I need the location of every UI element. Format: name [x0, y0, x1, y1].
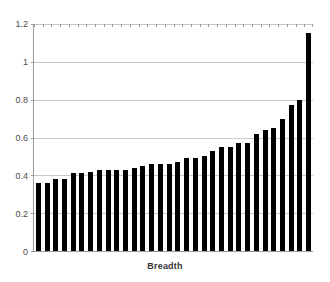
bar — [289, 105, 294, 251]
bar — [210, 151, 215, 251]
plot-area — [33, 24, 313, 252]
bar — [228, 147, 233, 251]
x-tick-mark — [104, 24, 105, 27]
x-tick-mark — [147, 24, 148, 27]
x-tick-mark — [226, 24, 227, 27]
y-tick-label-0.6: 0.6 — [0, 134, 28, 143]
x-tick-mark — [296, 24, 297, 27]
bar — [132, 168, 137, 251]
bar — [254, 134, 259, 251]
x-tick-mark — [86, 24, 87, 27]
bar — [97, 170, 102, 251]
x-tick-mark — [252, 24, 253, 27]
x-tick-mark — [130, 24, 131, 27]
x-axis-title: Breadth — [0, 261, 330, 271]
bar — [149, 164, 154, 251]
bar — [202, 156, 207, 251]
x-tick-mark — [34, 24, 35, 27]
bar — [175, 162, 180, 251]
bar — [158, 164, 163, 251]
y-tick-label-1.2: 1.2 — [0, 20, 28, 29]
bar — [36, 183, 41, 251]
bar — [245, 143, 250, 251]
y-tick-label-0.4: 0.4 — [0, 172, 28, 181]
bar — [71, 173, 76, 251]
x-tick-mark — [243, 24, 244, 27]
bar — [219, 147, 224, 251]
bar — [271, 128, 276, 251]
bar — [140, 166, 145, 251]
x-tick-mark — [121, 24, 122, 27]
x-tick-mark — [278, 24, 279, 27]
bar — [106, 170, 111, 251]
x-tick-mark — [208, 24, 209, 27]
x-tick-mark — [174, 24, 175, 27]
y-tick-label-0.2: 0.2 — [0, 210, 28, 219]
bar — [53, 179, 58, 251]
x-tick-mark — [112, 24, 113, 27]
bar — [123, 170, 128, 251]
bar-chart: 1.2 1 0.8 0.6 0.4 0.2 0 Breadth — [0, 0, 330, 282]
x-tick-mark — [217, 24, 218, 27]
x-tick-mark — [43, 24, 44, 27]
x-tick-mark — [269, 24, 270, 27]
x-tick-mark — [287, 24, 288, 27]
bar — [114, 170, 119, 251]
bar — [280, 119, 285, 251]
bar-series — [34, 24, 313, 251]
x-tick-mark — [78, 24, 79, 27]
y-tick-label-1: 1 — [0, 58, 28, 67]
y-tick-label-0.8: 0.8 — [0, 96, 28, 105]
x-tick-mark — [139, 24, 140, 27]
bar — [62, 179, 67, 251]
x-tick-mark — [182, 24, 183, 27]
bar — [306, 33, 311, 251]
y-tick-mark-0 — [31, 251, 34, 252]
x-tick-mark — [261, 24, 262, 27]
x-tick-mark — [95, 24, 96, 27]
bar — [88, 172, 93, 251]
bar — [79, 173, 84, 251]
bar — [236, 143, 241, 251]
bar — [193, 158, 198, 251]
y-tick-label-0: 0 — [0, 248, 28, 257]
bar — [45, 183, 50, 251]
x-tick-mark — [191, 24, 192, 27]
x-tick-mark — [69, 24, 70, 27]
x-tick-mark — [304, 24, 305, 27]
x-tick-mark — [51, 24, 52, 27]
x-tick-mark — [165, 24, 166, 27]
bar — [167, 164, 172, 251]
x-tick-mark — [156, 24, 157, 27]
x-tick-mark — [60, 24, 61, 27]
bar — [184, 158, 189, 251]
x-tick-mark — [200, 24, 201, 27]
bar — [297, 100, 302, 251]
bar — [263, 130, 268, 251]
x-tick-mark — [312, 24, 313, 27]
x-tick-mark — [235, 24, 236, 27]
